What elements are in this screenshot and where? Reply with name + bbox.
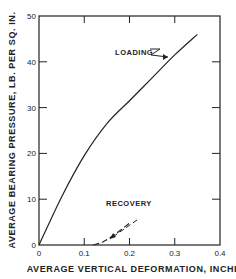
x-tick-label: 0.2 xyxy=(124,249,136,258)
y-tick-label: 10 xyxy=(27,195,36,204)
loading-arrowhead xyxy=(163,54,168,60)
x-tick-label: 0.3 xyxy=(169,249,181,258)
x-tick-label: 0 xyxy=(37,249,42,258)
x-tick-label: 0.4 xyxy=(214,249,226,258)
annotation-recovery: RECOVERY xyxy=(106,199,152,208)
y-tick-label: 40 xyxy=(27,58,36,67)
x-axis-label: AVERAGE VERTICAL DEFORMATION, INCHES xyxy=(27,264,236,274)
recovery-arrowhead xyxy=(110,233,116,239)
chart: 00.10.20.30.401020304050 LOADINGRECOVERY… xyxy=(0,0,236,279)
series-loading xyxy=(39,34,197,245)
y-tick-label: 50 xyxy=(27,12,36,21)
y-tick-label: 30 xyxy=(27,104,36,113)
y-tick-label: 0 xyxy=(32,241,37,250)
series-recovery xyxy=(93,223,129,245)
annotations: LOADINGRECOVERY xyxy=(106,48,168,239)
y-axis-label: AVERAGE BEARING PRESSURE, LB. PER SQ. IN… xyxy=(7,12,17,249)
data-series xyxy=(39,34,197,245)
annotation-loading: LOADING xyxy=(115,48,153,57)
y-tick-label: 20 xyxy=(27,149,36,158)
x-tick-label: 0.1 xyxy=(79,249,91,258)
